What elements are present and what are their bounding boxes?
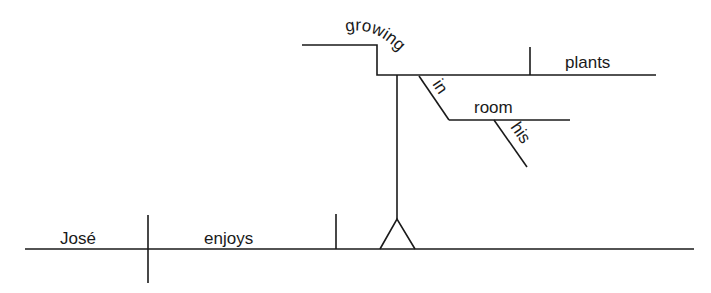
word-subject: José (60, 229, 96, 248)
sentence-diagram: José enjoys plants room growing in his (0, 0, 711, 293)
word-gerund-object: plants (565, 53, 610, 72)
word-prep-object: room (474, 98, 513, 117)
pedestal-base (380, 219, 415, 249)
word-verb: enjoys (204, 229, 253, 248)
